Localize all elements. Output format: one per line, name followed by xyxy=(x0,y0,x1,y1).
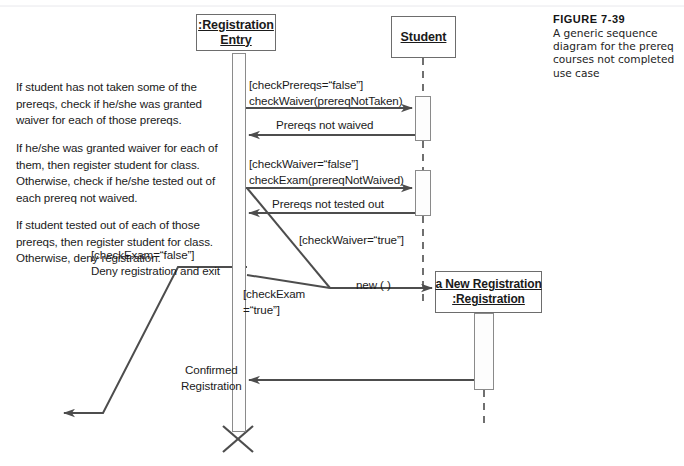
sequence-diagram-canvas: :Registration Entry Student a New Regist… xyxy=(0,0,684,466)
message-label-check-exam: [checkWaiver=“false”] checkExam(prereqNo… xyxy=(249,156,404,187)
lifeline-student: Student xyxy=(391,16,456,58)
lifeline-registration-entry: :Registration Entry xyxy=(196,14,276,51)
message-label-check-waiver: [checkPrereqs=“false”] checkWaiver(prere… xyxy=(249,77,402,108)
note-waiver-granted: If he/she was granted waiver for each of… xyxy=(16,140,221,206)
lifeline-registration-entry-line2: Entry xyxy=(220,33,251,48)
activation-bar-student-2 xyxy=(415,170,431,216)
lifeline-student-label: Student xyxy=(401,30,447,45)
message-label-confirmed-registration: Confirmed Registration xyxy=(181,362,242,393)
figure-number: FIGURE 7-39 xyxy=(553,12,675,26)
message-label-new-call: new ( ) xyxy=(356,277,391,293)
guard-label-deny-registration: [checkExam=“false”] Deny registration an… xyxy=(91,247,220,278)
figure-description: A generic sequence diagram for the prere… xyxy=(553,27,675,80)
lifeline-new-registration: a New Registration :Registration xyxy=(435,271,542,313)
message-label-prereqs-not-tested-out: Prereqs not tested out xyxy=(272,196,384,212)
figure-caption: FIGURE 7-39 A generic sequence diagram f… xyxy=(553,12,675,80)
lifeline-new-registration-line2: :Registration xyxy=(452,292,525,307)
lifeline-registration-entry-line1: :Registration xyxy=(198,18,274,33)
guard-label-check-exam-true: [checkExam =“true”] xyxy=(243,286,305,317)
activation-bar-new-registration xyxy=(474,313,494,390)
lifeline-new-registration-line1: a New Registration xyxy=(435,277,541,292)
note-prereqs-not-taken: If student has not taken some of the pre… xyxy=(16,79,221,129)
activation-bar-student-1 xyxy=(415,96,431,141)
message-label-prereqs-not-waived: Prereqs not waived xyxy=(276,117,373,133)
guard-label-check-waiver-true: [checkWaiver=“true”] xyxy=(299,232,404,248)
